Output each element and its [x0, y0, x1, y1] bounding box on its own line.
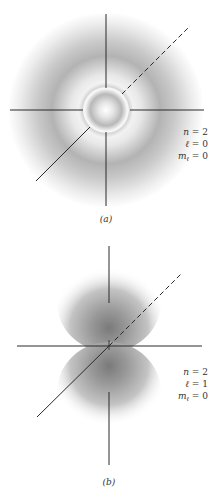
figure-b: n = 2 ℓ = 1 mℓ = 0 (b) — [0, 240, 218, 494]
l-value: ℓ = 0 — [178, 138, 208, 150]
caption-b: (b) — [94, 477, 124, 487]
quantum-numbers-b: n = 2 ℓ = 1 mℓ = 0 — [178, 366, 208, 405]
ml-value: mℓ = 0 — [178, 390, 208, 405]
quantum-numbers-a: n = 2 ℓ = 0 mℓ = 0 — [178, 126, 208, 165]
l-value: ℓ = 1 — [178, 378, 208, 390]
inner-core — [85, 89, 127, 131]
ml-value: mℓ = 0 — [178, 150, 208, 165]
figure-a: n = 2 ℓ = 0 mℓ = 0 (a) — [0, 0, 218, 240]
n-value: n = 2 — [178, 126, 208, 138]
orbital-2s-diagram — [0, 0, 218, 240]
caption-a: (a) — [91, 214, 121, 224]
n-value: n = 2 — [178, 366, 208, 378]
